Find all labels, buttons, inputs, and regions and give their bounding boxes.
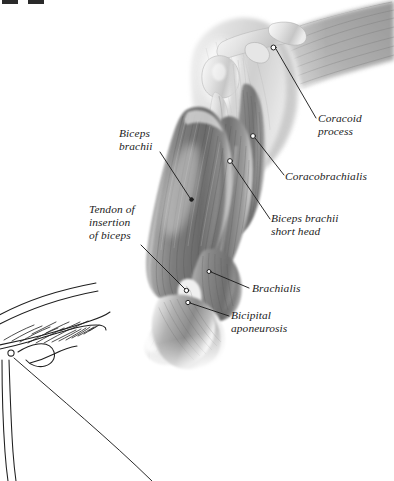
anchor-biceps-short-head	[228, 159, 233, 164]
anchor-coracobrachialis	[251, 134, 256, 139]
page-edge-mark-2	[28, 0, 44, 4]
shoulder-girdle-line-drawing	[0, 283, 152, 481]
anchor-coracoid-process	[271, 45, 276, 50]
label-biceps-brachii-line2: brachii	[119, 140, 153, 152]
label-brachialis: Brachialis	[252, 282, 300, 295]
label-biceps-short-head-line1: Biceps brachii	[271, 212, 339, 224]
anatomy-figure	[0, 0, 394, 481]
anchor-bicipital-aponeurosis	[186, 300, 190, 304]
label-tendon-line1: Tendon of	[89, 203, 135, 215]
label-tendon-line2: insertion	[89, 216, 130, 228]
label-brachialis-line1: Brachialis	[252, 282, 300, 294]
label-coracoid-process: Coracoidprocess	[318, 112, 362, 138]
label-biceps-brachii: Bicepsbrachii	[119, 127, 153, 153]
label-bicipital-aponeurosis: Bicipitalaponeurosis	[231, 309, 287, 335]
proximal-forearm	[150, 294, 232, 378]
label-bicipital-aponeurosis-line2: aponeurosis	[231, 322, 287, 334]
label-coracobrachialis-line1: Coracobrachialis	[285, 170, 367, 182]
page-edge-mark-1	[2, 0, 18, 4]
anchor-tendon-of-insertion	[184, 288, 188, 292]
label-tendon-of-insertion-of-biceps: Tendon ofinsertionof biceps	[89, 203, 135, 243]
label-coracoid-process-line2: process	[318, 125, 353, 137]
label-coracoid-process-line1: Coracoid	[318, 112, 362, 124]
label-coracobrachialis: Coracobrachialis	[285, 170, 367, 183]
label-biceps-brachii-short-head: Biceps brachiishort head	[271, 212, 339, 238]
label-biceps-brachii-line1: Biceps	[119, 127, 150, 139]
label-biceps-short-head-line2: short head	[271, 225, 320, 237]
anchor-biceps-brachii	[190, 198, 194, 202]
anchor-brachialis	[207, 270, 211, 274]
label-tendon-line3: of biceps	[89, 229, 131, 241]
label-bicipital-aponeurosis-line1: Bicipital	[231, 309, 271, 321]
